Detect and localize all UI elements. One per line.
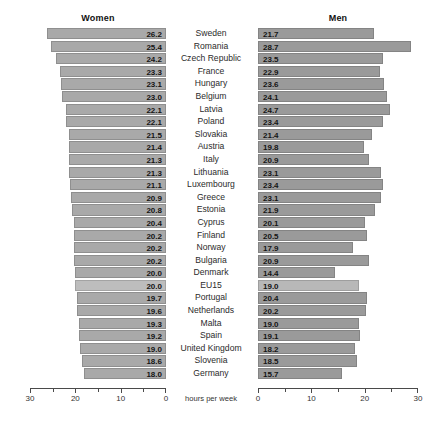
bar-men[interactable]: 28.7: [258, 41, 411, 52]
bar-men[interactable]: 22.9: [258, 66, 380, 77]
bar-cell-women: 22.1: [30, 104, 166, 115]
bar-men[interactable]: 19.1: [258, 330, 360, 341]
bar-men[interactable]: 21.4: [258, 129, 372, 140]
bar-women[interactable]: 21.3: [69, 167, 166, 178]
bar-women[interactable]: 21.5: [69, 129, 166, 140]
bar-women[interactable]: 19.2: [79, 330, 166, 341]
chart-row: 20.4Cyprus20.1: [0, 217, 439, 230]
bar-women[interactable]: 20.0: [75, 280, 166, 291]
bar-men[interactable]: 19.0: [258, 318, 359, 329]
chart-row: 21.3Italy20.9: [0, 154, 439, 167]
bar-women[interactable]: 21.4: [69, 141, 166, 152]
bar-men[interactable]: 23.4: [258, 116, 383, 127]
bar-men[interactable]: 20.5: [258, 230, 367, 241]
bar-men[interactable]: 23.4: [258, 179, 383, 190]
bar-women[interactable]: 20.0: [75, 267, 166, 278]
bar-women[interactable]: 19.7: [77, 292, 166, 303]
bar-women[interactable]: 21.1: [70, 179, 166, 190]
bar-cell-men: 23.5: [258, 53, 418, 64]
column-header-women: Women: [30, 13, 166, 23]
chart-row: 24.2Czech Republic23.5: [0, 53, 439, 66]
chart-row: 20.0Denmark14.4: [0, 267, 439, 280]
bar-women[interactable]: 20.2: [74, 242, 166, 253]
chart-row: 20.2Bulgaria20.9: [0, 255, 439, 268]
bar-value-men: 22.9: [263, 67, 279, 78]
bar-cell-men: 20.1: [258, 217, 418, 228]
chart-row: 21.5Slovakia21.4: [0, 129, 439, 142]
bar-women[interactable]: 21.3: [69, 154, 166, 165]
bar-men[interactable]: 23.6: [258, 78, 384, 89]
bar-women[interactable]: 18.6: [82, 355, 166, 366]
chart-row: 21.3Lithuania23.1: [0, 167, 439, 180]
bar-men[interactable]: 20.1: [258, 217, 365, 228]
bar-cell-men: 18.2: [258, 343, 418, 354]
axis-tick-minor: [53, 388, 54, 392]
bar-women[interactable]: 19.6: [77, 305, 166, 316]
country-label: Portugal: [168, 292, 254, 303]
axis-tick-minor: [98, 388, 99, 392]
bar-women[interactable]: 24.2: [56, 53, 166, 64]
chart-row: 21.4Austria19.8: [0, 141, 439, 154]
bar-men[interactable]: 23.1: [258, 167, 381, 178]
chart-row: 19.6Netherlands20.2: [0, 305, 439, 318]
chart-row: 22.1Poland23.4: [0, 116, 439, 129]
bar-women[interactable]: 19.0: [80, 343, 166, 354]
bar-men[interactable]: 18.5: [258, 355, 357, 366]
country-label: United Kingdom: [168, 343, 254, 354]
column-header-men: Men: [258, 13, 418, 23]
country-label: Estonia: [168, 204, 254, 215]
country-label: Spain: [168, 330, 254, 341]
bar-women[interactable]: 20.9: [71, 192, 166, 203]
bar-women[interactable]: 19.3: [79, 318, 166, 329]
bar-men[interactable]: 15.7: [258, 368, 342, 379]
bar-men[interactable]: 23.5: [258, 53, 383, 64]
bar-value-women: 20.0: [146, 281, 162, 292]
country-label: Austria: [168, 141, 254, 152]
bar-men[interactable]: 21.7: [258, 28, 374, 39]
bar-men[interactable]: 17.9: [258, 242, 353, 253]
bar-cell-women: 19.7: [30, 292, 166, 303]
bar-men[interactable]: 20.9: [258, 255, 369, 266]
bar-men[interactable]: 18.2: [258, 343, 355, 354]
bar-men[interactable]: 14.4: [258, 267, 335, 278]
country-label: Finland: [168, 230, 254, 241]
bar-women[interactable]: 23.1: [61, 78, 166, 89]
bar-women[interactable]: 22.1: [66, 104, 166, 115]
bar-women[interactable]: 25.4: [51, 41, 166, 52]
bar-men[interactable]: 24.1: [258, 91, 387, 102]
bar-women[interactable]: 22.1: [66, 116, 166, 127]
bar-cell-men: 23.1: [258, 167, 418, 178]
bar-women[interactable]: 23.3: [60, 66, 166, 77]
bar-value-men: 23.5: [263, 54, 279, 65]
bar-value-men: 23.4: [263, 117, 279, 128]
bar-women[interactable]: 20.4: [74, 217, 166, 228]
bar-cell-women: 26.2: [30, 28, 166, 39]
bar-men[interactable]: 19.8: [258, 141, 364, 152]
bar-women[interactable]: 18.0: [84, 368, 166, 379]
bar-women[interactable]: 20.2: [74, 230, 166, 241]
bar-men[interactable]: 20.9: [258, 154, 369, 165]
bar-value-women: 20.2: [146, 256, 162, 267]
bar-men[interactable]: 24.7: [258, 104, 390, 115]
bar-men[interactable]: 20.2: [258, 305, 366, 316]
bar-value-men: 18.5: [263, 356, 279, 367]
axis-tick-major: [258, 388, 259, 393]
bar-value-women: 23.3: [146, 67, 162, 78]
bar-women[interactable]: 20.8: [72, 204, 166, 215]
bar-men[interactable]: 21.9: [258, 204, 375, 215]
bar-value-women: 22.1: [146, 117, 162, 128]
bar-men[interactable]: 20.4: [258, 292, 367, 303]
country-label: Belgium: [168, 91, 254, 102]
country-label: Luxembourg: [168, 179, 254, 190]
bar-men[interactable]: 19.0: [258, 280, 359, 291]
bar-men[interactable]: 23.1: [258, 192, 381, 203]
bar-cell-men: 20.5: [258, 230, 418, 241]
chart-row: 23.1Hungary23.6: [0, 78, 439, 91]
bar-value-women: 24.2: [146, 54, 162, 65]
bar-women[interactable]: 26.2: [47, 28, 166, 39]
bar-women[interactable]: 20.2: [74, 255, 166, 266]
bar-cell-men: 14.4: [258, 267, 418, 278]
chart-headers: Women Men: [0, 13, 439, 27]
bar-women[interactable]: 23.0: [62, 91, 166, 102]
bar-value-men: 21.7: [263, 29, 279, 40]
